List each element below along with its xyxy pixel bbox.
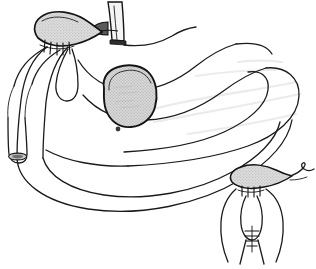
surgical-illustration — [0, 0, 316, 269]
marker-dot — [116, 127, 121, 132]
shaded-oval-mass — [104, 65, 157, 127]
figure-root: Surgical anastomosis illustration black-… — [0, 0, 316, 269]
